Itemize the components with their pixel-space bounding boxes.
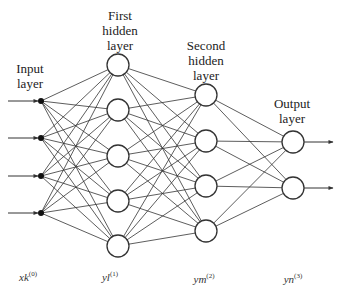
neuron-circle <box>107 54 129 76</box>
connection-line <box>41 73 110 138</box>
input-node-dot <box>38 98 44 104</box>
output-layer-title: Outputlayer <box>274 96 310 126</box>
connection-line <box>216 148 284 182</box>
connection-line <box>41 101 113 236</box>
connection-line <box>129 97 195 108</box>
input-layer-title: Inputlayer <box>16 61 43 91</box>
connection-line <box>41 75 113 213</box>
connection-line <box>127 102 197 150</box>
output-layer-label: Outputlayer <box>274 96 310 126</box>
input-node-dot <box>38 135 44 141</box>
connection-line <box>217 141 282 142</box>
neuron-circle <box>107 235 129 257</box>
input-node-dot <box>38 210 44 216</box>
neuron-circle <box>195 84 217 106</box>
connection-line <box>128 69 195 91</box>
neural-network-diagram: Inputlayer Firsthiddenlayer Secondhidden… <box>0 0 340 294</box>
hidden1-variable: yl(1) <box>102 270 118 283</box>
second-hidden-layer-title: Secondhiddenlayer <box>187 38 225 83</box>
connection-line <box>128 114 195 137</box>
input-layer-label: Inputlayer <box>16 61 43 91</box>
neuron-circle <box>195 175 217 197</box>
connection-line <box>41 203 107 213</box>
input-variable: xk(0) <box>19 270 37 283</box>
connection-line <box>41 70 108 101</box>
hidden2-variable: ym(2) <box>194 272 215 285</box>
neuron-circle <box>107 145 129 167</box>
connection-line <box>41 163 109 213</box>
second-hidden-layer-label: Secondhiddenlayer <box>187 38 225 83</box>
connection-line <box>216 193 284 226</box>
network-graph <box>0 0 340 294</box>
neuron-circle <box>107 190 129 212</box>
connection-line <box>41 119 111 213</box>
connection-line <box>127 193 197 240</box>
first-hidden-layer-label: Firsthiddenlayer <box>102 8 137 53</box>
output-variable: yn(3) <box>284 272 303 285</box>
connection-line <box>128 205 195 227</box>
first-hidden-layer-title: Firsthiddenlayer <box>102 8 137 53</box>
neuron-circle <box>195 220 217 242</box>
neuron-circle <box>195 130 217 152</box>
connection-line <box>41 114 108 138</box>
neuron-circle <box>107 99 129 121</box>
neuron-circle <box>282 177 304 199</box>
neuron-circle <box>282 131 304 153</box>
input-node-dot <box>38 173 44 179</box>
connection-line <box>129 233 195 244</box>
